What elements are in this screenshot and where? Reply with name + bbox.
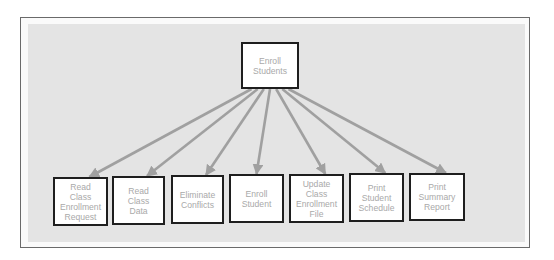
node-print-student-schedule: Print Student Schedule bbox=[349, 173, 404, 222]
node-label: Update Class Enrollment File bbox=[296, 179, 337, 219]
node-label: Enroll Student bbox=[242, 189, 272, 209]
node-label: Read Class Enrollment Request bbox=[60, 182, 101, 222]
node-enroll-students: Enroll Students bbox=[241, 42, 299, 89]
arrow-to-print-summary-report bbox=[289, 89, 446, 173]
node-read-class-data: Read Class Data bbox=[112, 176, 165, 225]
node-label: Eliminate Conflicts bbox=[180, 190, 215, 210]
node-read-class-enrollment-request: Read Class Enrollment Request bbox=[53, 177, 108, 226]
arrow-to-eliminate-conflicts bbox=[206, 89, 264, 175]
node-label: Print Summary Report bbox=[419, 182, 456, 212]
node-label: Read Class Data bbox=[128, 186, 150, 216]
node-eliminate-conflicts: Eliminate Conflicts bbox=[171, 175, 224, 224]
arrow-to-read-class-data bbox=[147, 89, 258, 176]
arrow-to-update-class-enrollment-file bbox=[276, 89, 325, 174]
node-enroll-student: Enroll Student bbox=[229, 174, 284, 223]
node-label: Enroll Students bbox=[253, 56, 287, 76]
node-print-summary-report: Print Summary Report bbox=[409, 173, 465, 221]
node-label: Print Student Schedule bbox=[359, 183, 395, 213]
arrow-to-read-class-enrollment-request bbox=[89, 89, 251, 177]
node-update-class-enrollment-file: Update Class Enrollment File bbox=[289, 174, 344, 223]
arrow-to-enroll-student bbox=[257, 89, 271, 174]
